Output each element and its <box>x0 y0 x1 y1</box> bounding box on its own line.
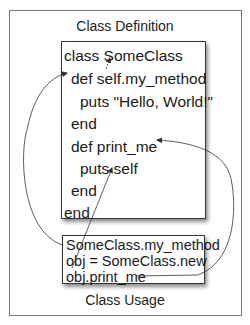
code-line-end-method: end <box>71 115 97 133</box>
class-definition-caption: Class Definition <box>0 18 250 34</box>
code-line-puts-self: puts self <box>80 160 138 178</box>
code-line-class-declaration: class SomeClass <box>64 47 183 65</box>
class-usage-box: SomeClass.my_method obj = SomeClass.new … <box>62 235 205 284</box>
code-line-end-class: end <box>64 204 90 222</box>
usage-line-call-print-me: obj.print_me <box>66 269 146 285</box>
class-definition-box: class SomeClass def self.my_method puts … <box>61 41 206 219</box>
usage-line-new-object: obj = SomeClass.new <box>66 253 207 269</box>
code-line-end-print-me: end <box>71 182 97 200</box>
code-line-puts-hello: puts "Hello, World!" <box>80 93 213 111</box>
class-usage-caption: Class Usage <box>0 292 250 308</box>
code-line-def-my-method: def self.my_method <box>71 70 206 88</box>
code-line-def-print-me: def print_me <box>71 138 157 156</box>
usage-line-call-my-method: SomeClass.my_method <box>66 237 220 253</box>
